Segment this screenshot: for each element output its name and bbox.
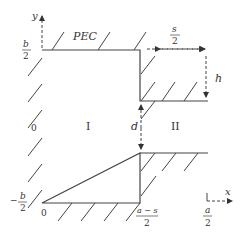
- h-label: h: [215, 72, 222, 85]
- s-num: s: [172, 24, 177, 34]
- x-tick-mid-den: 2: [144, 218, 150, 228]
- x-tick-end-num: a: [205, 205, 210, 215]
- pec-boundary: [42, 50, 208, 203]
- y-tick-bottom-num: b: [20, 191, 26, 201]
- y-tick-bottom-sign: −: [10, 195, 18, 205]
- y-tick-top-den: 2: [23, 51, 29, 61]
- y-tick-zero: 0: [31, 123, 37, 133]
- x-axis-label: x: [225, 186, 231, 197]
- y-tick-top-num: b: [23, 39, 29, 49]
- region-1-label: I: [86, 120, 90, 133]
- x-tick-mid-num: a − s: [137, 206, 158, 215]
- x-tick-end-den: 2: [205, 218, 211, 228]
- y-axis-label: y: [31, 10, 38, 21]
- pec-label: PEC: [72, 30, 97, 43]
- x-tick-zero: 0: [41, 208, 47, 218]
- region-2-label: II: [171, 120, 180, 133]
- s-den: 2: [172, 36, 178, 46]
- d-label: d: [131, 120, 138, 133]
- waveguide-diagram: y PEC s 2 h: [0, 0, 244, 239]
- y-tick-bottom-den: 2: [20, 203, 26, 213]
